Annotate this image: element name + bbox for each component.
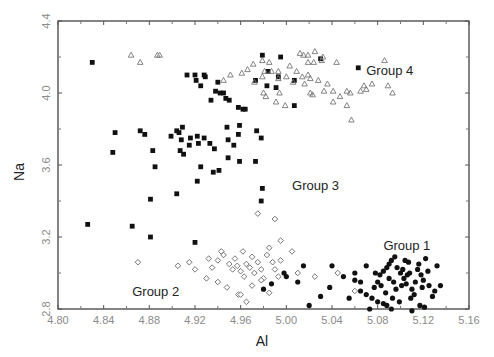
group-label: Group 3: [292, 178, 339, 193]
data-point: [266, 290, 272, 296]
data-point: [253, 159, 258, 164]
data-point: [215, 80, 220, 85]
x-tick-label: 4.96: [230, 314, 251, 326]
series-group-1: [261, 254, 443, 313]
data-point: [422, 305, 427, 310]
data-point: [209, 98, 214, 103]
data-point: [270, 259, 276, 265]
data-point: [404, 281, 409, 286]
data-point: [308, 76, 314, 81]
data-point: [209, 265, 215, 271]
data-point: [321, 88, 327, 93]
data-point: [226, 261, 232, 267]
data-point: [234, 263, 240, 269]
data-point: [397, 299, 402, 304]
data-point: [243, 107, 248, 112]
data-point: [356, 65, 361, 70]
data-point: [195, 134, 200, 139]
data-points: [85, 49, 443, 314]
data-point: [400, 267, 405, 272]
x-tick-label: 4.88: [139, 314, 160, 326]
data-point: [276, 274, 282, 280]
data-point: [402, 258, 407, 263]
x-tick-label: 4.92: [184, 314, 205, 326]
series-group-3: [85, 53, 360, 245]
data-point: [193, 73, 198, 78]
data-point: [325, 81, 331, 86]
data-point: [307, 303, 312, 308]
data-point: [211, 170, 216, 175]
x-tick-label: 5.04: [321, 314, 342, 326]
data-point: [259, 136, 264, 141]
data-point: [372, 285, 377, 290]
data-point: [198, 164, 203, 169]
data-point: [409, 287, 414, 292]
data-point: [349, 117, 355, 122]
data-point: [232, 256, 238, 262]
data-point: [113, 130, 118, 135]
data-point: [358, 88, 364, 93]
data-point: [383, 290, 388, 295]
data-point: [382, 58, 388, 63]
series-group-4: [128, 49, 395, 122]
data-point: [302, 81, 308, 86]
data-point: [204, 276, 210, 282]
data-point: [195, 179, 200, 184]
data-point: [193, 240, 198, 245]
data-point: [263, 94, 269, 99]
data-point: [185, 73, 190, 78]
data-point: [237, 123, 242, 128]
y-tick-label: 4.4: [40, 13, 52, 28]
data-point: [295, 270, 301, 276]
data-point: [384, 303, 389, 308]
data-point: [358, 288, 363, 293]
data-point: [179, 137, 184, 142]
data-point: [276, 68, 282, 73]
data-point: [249, 254, 255, 260]
data-point: [272, 267, 278, 273]
data-point: [330, 88, 336, 93]
data-point: [367, 306, 372, 311]
data-point: [225, 125, 230, 130]
data-point: [344, 88, 350, 93]
data-point: [274, 85, 279, 90]
data-point: [430, 294, 435, 299]
data-point: [175, 263, 181, 269]
data-point: [418, 272, 423, 277]
data-point: [254, 128, 259, 133]
data-point: [273, 99, 279, 104]
data-point: [330, 99, 336, 104]
data-point: [142, 132, 147, 137]
data-point: [413, 279, 418, 284]
scatter-plot: 4.804.844.884.924.965.005.045.085.125.16…: [0, 0, 494, 357]
data-point: [237, 159, 242, 164]
data-point: [369, 81, 375, 86]
data-point: [148, 197, 153, 202]
data-point: [311, 59, 317, 64]
data-point: [138, 128, 143, 133]
data-point: [264, 252, 270, 258]
data-point: [287, 63, 293, 68]
data-point: [260, 186, 265, 191]
data-point: [194, 78, 199, 83]
data-point: [284, 274, 289, 279]
data-point: [272, 216, 278, 222]
x-tick-label: 5.12: [413, 314, 434, 326]
data-point: [278, 55, 283, 60]
data-point: [363, 86, 369, 91]
data-point: [266, 245, 272, 251]
data-point: [212, 146, 217, 151]
data-point: [318, 294, 323, 299]
data-point: [393, 287, 398, 292]
data-point: [206, 256, 212, 262]
data-point: [301, 263, 306, 268]
data-point: [236, 132, 241, 137]
data-point: [390, 296, 395, 301]
data-point: [174, 191, 179, 196]
data-point: [407, 270, 412, 275]
data-point: [213, 89, 218, 94]
data-point: [223, 96, 228, 101]
data-point: [224, 285, 230, 291]
data-point: [169, 134, 174, 139]
data-point: [394, 265, 399, 270]
